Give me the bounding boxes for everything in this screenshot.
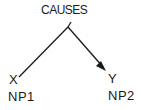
root-tick (68, 22, 71, 27)
left-variable-label: X (9, 73, 18, 86)
left-branch-line (19, 27, 68, 77)
right-category-label: NP2 (108, 89, 135, 102)
right-variable-label: Y (108, 72, 117, 85)
arrowhead-icon (96, 61, 106, 71)
right-branch-arrow (68, 27, 103, 67)
root-predicate-label: CAUSES (41, 4, 87, 16)
causal-tree-diagram: CAUSES X NP1 Y NP2 (0, 0, 141, 110)
left-category-label: NP1 (8, 90, 35, 103)
